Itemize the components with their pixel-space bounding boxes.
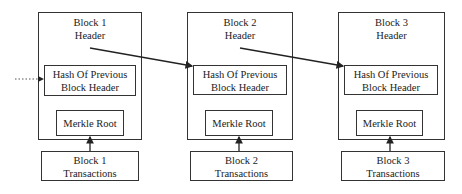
- block2-to-block3-arrow: [240, 48, 343, 66]
- block1-to-block2-arrow: [90, 48, 192, 66]
- blockchain-diagram: Block 1 Header Hash Of Previous Block He…: [0, 0, 462, 194]
- connector-arrows: [0, 0, 462, 194]
